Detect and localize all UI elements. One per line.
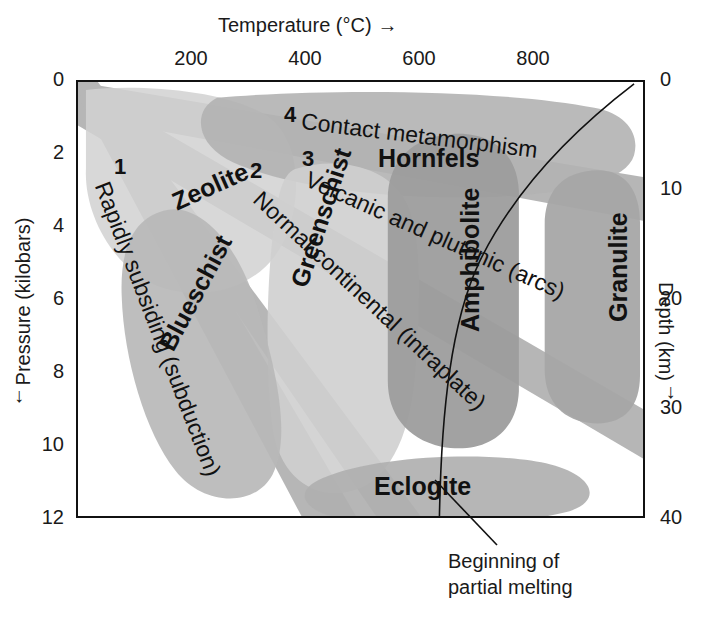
figure-canvas: Temperature (°C)→ ↓Pressure (kilobars) D…	[0, 0, 719, 623]
partial-melting-leader-line	[0, 0, 719, 623]
partial-melting-line-2: partial melting	[448, 574, 573, 600]
partial-melting-line-1: Beginning of	[448, 548, 573, 574]
partial-melting-annotation: Beginning of partial melting	[448, 548, 573, 600]
